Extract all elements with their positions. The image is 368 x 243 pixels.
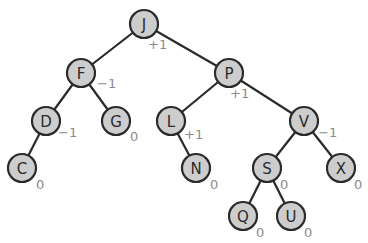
node-label: L xyxy=(167,113,176,131)
balance-factor-q: 0 xyxy=(256,225,264,240)
node-label: C xyxy=(17,160,27,178)
node-f: F xyxy=(67,59,95,87)
node-label: N xyxy=(190,160,201,178)
node-d: D xyxy=(32,107,60,135)
node-p: P xyxy=(215,59,243,87)
balance-factor-u: 0 xyxy=(304,225,312,240)
node-label: F xyxy=(77,65,86,83)
node-c: C xyxy=(8,154,36,182)
node-l: L xyxy=(157,107,185,135)
node-j: J xyxy=(130,10,158,38)
node-q: Q xyxy=(229,202,257,230)
balance-factor-p: +1 xyxy=(230,86,249,101)
node-label: U xyxy=(286,208,297,226)
node-label: J xyxy=(141,16,146,34)
balance-factor-g: 0 xyxy=(130,129,138,144)
node-label: V xyxy=(299,113,310,131)
node-g: G xyxy=(102,107,130,135)
balance-factor-c: 0 xyxy=(36,177,44,192)
node-u: U xyxy=(277,202,305,230)
node-x: X xyxy=(327,154,355,182)
node-label: P xyxy=(224,65,233,83)
node-label: X xyxy=(336,160,346,178)
node-label: Q xyxy=(237,208,249,226)
tree-nodes: JFPDGLVCNSXQU xyxy=(8,10,355,230)
balance-factor-f: −1 xyxy=(97,76,116,91)
avl-tree-diagram: JFPDGLVCNSXQU +1−1+1−10+1−1000000 xyxy=(0,0,368,243)
node-n: N xyxy=(182,154,210,182)
node-v: V xyxy=(290,107,318,135)
balance-factor-x: 0 xyxy=(354,177,362,192)
balance-factor-d: −1 xyxy=(58,125,77,140)
balance-factor-n: 0 xyxy=(210,177,218,192)
node-s: S xyxy=(253,154,281,182)
node-label: S xyxy=(262,160,272,178)
balance-factor-v: −1 xyxy=(318,125,337,140)
balance-factor-j: +1 xyxy=(148,37,167,52)
balance-factor-l: +1 xyxy=(184,127,203,142)
node-label: G xyxy=(110,113,122,131)
node-label: D xyxy=(40,113,52,131)
balance-factor-s: 0 xyxy=(280,177,288,192)
